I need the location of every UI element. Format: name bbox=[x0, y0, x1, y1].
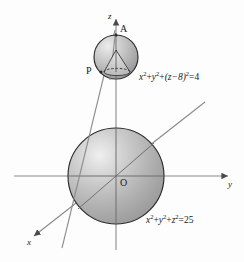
y-axis-label: y bbox=[228, 180, 232, 189]
small-sphere-equation: x2+y2+(z−8)2=4 bbox=[139, 73, 199, 83]
geometry-figure: z y x A P O x2+y2+(z−8)2=4 x2+y2+z2=25 bbox=[0, 0, 244, 262]
eq-small-expr: (z−8) bbox=[165, 72, 186, 82]
point-label-A: A bbox=[120, 24, 127, 34]
apex-point-A bbox=[115, 34, 118, 37]
z-axis-label: z bbox=[108, 12, 112, 21]
large-sphere-equation: x2+y2+z2=25 bbox=[146, 216, 193, 226]
eq-small-value: 4 bbox=[194, 72, 199, 82]
eq-large-value: 25 bbox=[184, 215, 194, 225]
figure-canvas bbox=[0, 0, 244, 262]
tangent-point-P bbox=[100, 71, 103, 74]
point-label-P: P bbox=[86, 66, 92, 76]
point-label-origin: O bbox=[120, 178, 127, 188]
x-axis-label: x bbox=[27, 238, 31, 247]
